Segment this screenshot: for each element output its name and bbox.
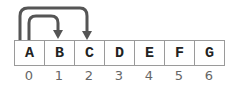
index-5: 5 [164,68,194,83]
index-1: 1 [44,68,74,83]
array-indices: 0 1 2 3 4 5 6 [14,68,224,83]
cell-4: E [135,40,165,66]
index-3: 3 [104,68,134,83]
cell-5: F [165,40,195,66]
cell-0: A [15,40,45,66]
cell-2: C [75,40,105,66]
index-6: 6 [194,68,224,83]
index-2: 2 [74,68,104,83]
index-4: 4 [134,68,164,83]
cell-1: B [45,40,75,66]
cell-6: G [195,40,225,66]
arrowhead-b-icon [53,30,63,39]
arrowhead-c-icon [82,31,92,40]
cell-3: D [105,40,135,66]
index-0: 0 [14,68,44,83]
array-cells: A B C D E F G [14,40,225,66]
arrow-a-to-b [29,16,58,40]
